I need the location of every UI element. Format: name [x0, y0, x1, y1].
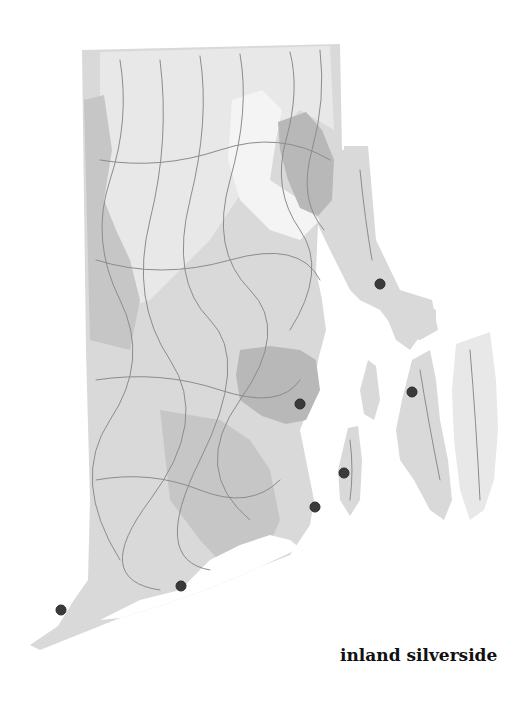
- occurrence-dot[interactable]: [339, 468, 349, 478]
- distribution-map: [0, 0, 532, 701]
- occurrence-dot[interactable]: [407, 387, 417, 397]
- occurrence-dot[interactable]: [295, 399, 305, 409]
- prudence-island: [360, 360, 380, 420]
- occurrence-dot[interactable]: [56, 605, 66, 615]
- aquidneck-island: [396, 350, 452, 520]
- occurrence-dot[interactable]: [176, 581, 186, 591]
- sakonnet-region: [452, 332, 498, 520]
- occurrence-dot[interactable]: [375, 279, 385, 289]
- east-bay-peninsula: [344, 146, 438, 340]
- species-label: inland silverside: [340, 645, 497, 665]
- occurrence-dot[interactable]: [310, 502, 320, 512]
